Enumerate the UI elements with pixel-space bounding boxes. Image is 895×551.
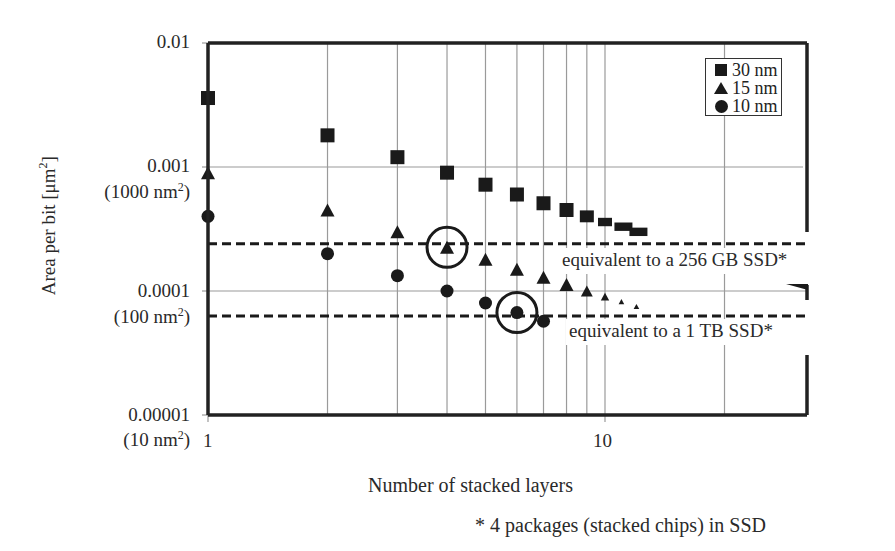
legend-item-15nm: 15 nm [714, 79, 781, 97]
paren: ) [184, 429, 190, 450]
sublabel-text: (1000 nm [104, 181, 177, 202]
x-tick-label-1: 1 [203, 430, 213, 452]
paren: ) [184, 306, 190, 327]
y-tick-label-0.0001: 0.0001 [100, 280, 190, 302]
data-points [201, 91, 647, 333]
bracket: ] [38, 156, 59, 162]
legend-label: 10 nm [732, 96, 778, 117]
ref-label-256gb: equivalent to a 256 GB SSD* [562, 249, 787, 271]
x-axis-title: Number of stacked layers [368, 474, 573, 497]
footnote: * 4 packages (stacked chips) in SSD [475, 514, 766, 537]
y-tick-label-0.00001: 0.00001 [90, 404, 190, 426]
sup: 2 [36, 162, 50, 168]
legend-item-10nm: 10 nm [714, 97, 781, 115]
triangle-marker-icon [714, 81, 728, 95]
legend: 30 nm 15 nm 10 nm [705, 58, 782, 116]
paren: ) [184, 181, 190, 202]
x-tick-label-10: 10 [593, 430, 612, 452]
sublabel-text: (10 nm [123, 429, 177, 450]
y-tick-sublabel-1000nm2: (1000 nm2) [60, 180, 190, 203]
y-tick-label-0.001: 0.001 [100, 155, 190, 177]
y-axis-title: Area per bit [μm2] [36, 126, 59, 326]
legend-item-30nm: 30 nm [714, 61, 781, 79]
y-tick-sublabel-100nm2: (100 nm2) [60, 305, 190, 328]
y-title-text: Area per bit [μm [38, 168, 59, 295]
square-marker-icon [714, 63, 728, 77]
y-tick-label-0.01: 0.01 [100, 31, 190, 53]
circle-marker-icon [714, 99, 728, 113]
ref-label-1tb: equivalent to a 1 TB SSD* [569, 320, 773, 342]
sublabel-text: (100 nm [114, 306, 178, 327]
y-tick-sublabel-10nm2: (10 nm2) [60, 428, 190, 451]
